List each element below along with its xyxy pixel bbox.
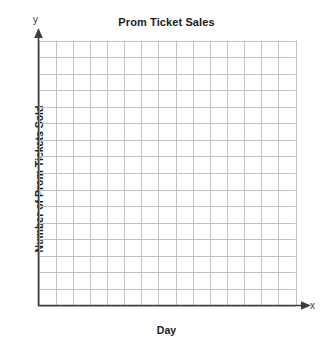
y-axis-arrowhead-icon	[34, 28, 43, 38]
grid-lines	[39, 41, 297, 307]
chart-figure: Prom Ticket Sales y x Number of Prom Tic…	[0, 0, 334, 360]
plot-area	[0, 0, 334, 360]
x-axis-arrowhead-icon	[301, 301, 311, 310]
axis-lines	[34, 28, 311, 310]
